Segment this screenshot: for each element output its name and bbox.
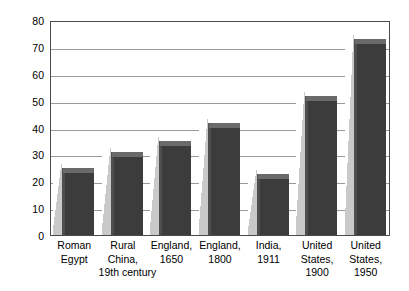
x-axis-label-line: 1900 bbox=[293, 266, 342, 280]
y-axis-tick-label: 30 bbox=[22, 150, 44, 160]
bar-side-face bbox=[111, 157, 114, 235]
y-axis-tick-label: 60 bbox=[22, 70, 44, 80]
y-axis-tick-label: 0 bbox=[22, 231, 44, 241]
x-axis-category-label: RomanEgypt bbox=[50, 239, 99, 266]
y-axis-tick-label: 50 bbox=[22, 97, 44, 107]
bar bbox=[257, 22, 289, 235]
x-axis-label-line: United bbox=[341, 239, 390, 253]
y-axis-tick-label: 40 bbox=[22, 124, 44, 134]
bar-face bbox=[354, 44, 386, 235]
bar-top-face bbox=[257, 174, 289, 179]
x-axis-category-label: England,1650 bbox=[147, 239, 196, 266]
bar-top-face bbox=[208, 123, 240, 128]
x-axis-label-line: China, bbox=[99, 253, 148, 267]
bar-shadow bbox=[248, 170, 257, 235]
bars-layer bbox=[51, 22, 389, 235]
bar-face bbox=[257, 179, 289, 235]
y-axis-tick-label: 10 bbox=[22, 204, 44, 214]
bar-top-face bbox=[111, 152, 143, 157]
bar-chart: Age (years) 01020304050607080 RomanEgypt… bbox=[0, 0, 409, 291]
x-axis-category-labels: RomanEgyptRuralChina,19th centuryEngland… bbox=[50, 239, 390, 291]
bar-shadow bbox=[345, 35, 354, 235]
x-axis-label-line: India, bbox=[244, 239, 293, 253]
y-axis-tick-label: 80 bbox=[22, 16, 44, 26]
y-axis-tick-label: 70 bbox=[22, 43, 44, 53]
x-axis-label-line: 1650 bbox=[147, 253, 196, 267]
x-axis-label-line: Egypt bbox=[50, 253, 99, 267]
bar-face bbox=[305, 101, 337, 235]
bar-shadow bbox=[296, 92, 305, 235]
bar bbox=[354, 22, 386, 235]
bar-shadow bbox=[199, 119, 208, 236]
bar-side-face bbox=[208, 128, 211, 236]
x-axis-label-line: States, bbox=[293, 253, 342, 267]
x-axis-label-line: England, bbox=[147, 239, 196, 253]
bar-top-face bbox=[62, 168, 94, 173]
bar-shadow bbox=[102, 148, 111, 235]
x-axis-label-line: 1800 bbox=[196, 253, 245, 267]
x-axis-category-label: RuralChina,19th century bbox=[99, 239, 148, 280]
x-axis-label-line: United bbox=[293, 239, 342, 253]
x-axis-label-line: 1911 bbox=[244, 253, 293, 267]
x-axis-label-line: Rural bbox=[99, 239, 148, 253]
y-axis-tick-labels: 01020304050607080 bbox=[20, 0, 44, 291]
bar-top-face bbox=[159, 141, 191, 146]
bar bbox=[305, 22, 337, 235]
x-axis-category-label: UnitedStates,1950 bbox=[341, 239, 390, 280]
x-axis-category-label: England,1800 bbox=[196, 239, 245, 266]
bar-top-face bbox=[305, 96, 337, 101]
bar-face bbox=[62, 173, 94, 235]
x-axis-label-line: Roman bbox=[50, 239, 99, 253]
bar-side-face bbox=[62, 173, 65, 235]
x-axis-label-line: 19th century bbox=[99, 266, 148, 280]
x-axis-label-line: 1950 bbox=[341, 266, 390, 280]
bar-face bbox=[208, 128, 240, 236]
x-axis-category-label: India,1911 bbox=[244, 239, 293, 266]
bar-side-face bbox=[305, 101, 308, 235]
bar-side-face bbox=[257, 179, 260, 235]
plot-area bbox=[50, 21, 390, 236]
bar-top-face bbox=[354, 39, 386, 44]
bar bbox=[159, 22, 191, 235]
bar-shadow bbox=[150, 137, 159, 235]
bar-face bbox=[159, 146, 191, 235]
bar-shadow bbox=[53, 164, 62, 235]
y-axis-tick-label: 20 bbox=[22, 177, 44, 187]
bar bbox=[208, 22, 240, 235]
bar bbox=[62, 22, 94, 235]
bar-face bbox=[111, 157, 143, 235]
x-axis-label-line: England, bbox=[196, 239, 245, 253]
bar bbox=[111, 22, 143, 235]
x-axis-category-label: UnitedStates,1900 bbox=[293, 239, 342, 280]
bar-side-face bbox=[159, 146, 162, 235]
bar-side-face bbox=[354, 44, 357, 235]
x-axis-label-line: States, bbox=[341, 253, 390, 267]
